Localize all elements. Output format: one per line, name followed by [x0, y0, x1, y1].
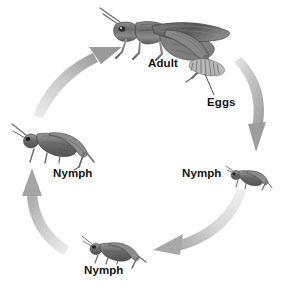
nymph-left-illustration — [12, 124, 94, 170]
label-nymph-left: Nymph — [53, 168, 92, 180]
arrow-nymph-bottom-to-nymph-left — [22, 168, 69, 255]
arrow-nymph-left-to-adult — [33, 47, 122, 118]
arrow-nymph-right-to-nymph-bottom — [153, 188, 246, 255]
nymph-right-illustration — [226, 166, 272, 190]
label-eggs: Eggs — [207, 97, 236, 109]
egg-cluster-illustration — [189, 59, 225, 76]
arrow-adult-to-nymph-right — [234, 57, 266, 152]
diagram-canvas — [0, 0, 284, 293]
adult-grasshopper-illustration — [100, 8, 230, 95]
eggs-leader-line — [205, 74, 214, 95]
grasshopper-life-cycle-diagram: Adult Eggs Nymph Nymph Nymph — [0, 0, 284, 293]
label-adult: Adult — [148, 58, 178, 70]
label-nymph-bottom: Nymph — [84, 265, 123, 277]
label-nymph-right: Nymph — [182, 168, 221, 180]
